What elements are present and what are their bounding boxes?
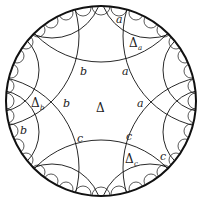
label-a-2: a xyxy=(122,65,129,78)
label-a-1: a xyxy=(116,13,123,26)
label-a-3: a xyxy=(137,97,144,110)
label-c-2: c xyxy=(126,130,132,143)
label-c-1: c xyxy=(77,132,83,145)
label-b-3: b xyxy=(20,124,27,137)
triangle-label-a: Δ xyxy=(129,36,138,50)
triangle-label-a-sub: a xyxy=(138,44,142,52)
triangle-label-c-sub: c xyxy=(134,160,138,168)
poincare-disk: Δ a a a b b b c c c Δ a Δ b Δ c xyxy=(0,0,204,205)
triangle-label-b: Δ xyxy=(31,96,40,110)
hyperbolic-tiling-diagram: Δ a a a b b b c c c Δ a Δ b Δ c xyxy=(0,0,204,205)
triangle-label-c: Δ xyxy=(125,152,134,166)
label-c-3: c xyxy=(160,150,166,163)
central-tile-label: Δ xyxy=(96,101,105,115)
label-b-2: b xyxy=(63,97,70,110)
label-b-1: b xyxy=(80,65,87,78)
triangle-label-b-sub: b xyxy=(40,104,45,112)
